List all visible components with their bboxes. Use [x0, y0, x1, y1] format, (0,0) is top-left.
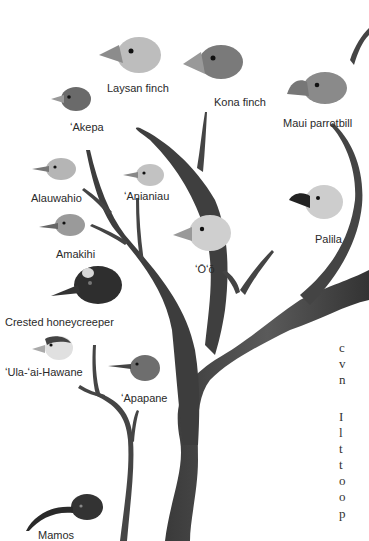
- label-oo: ʻŌʻō: [195, 263, 215, 275]
- ula-ai-hawane-head-icon: [31, 333, 75, 363]
- body-text-line: v: [339, 356, 346, 372]
- palila-head-icon: [288, 182, 344, 224]
- label-anianiau: ʻAnianiau: [124, 190, 169, 202]
- label-ula-ai-hawane: ʻUla-ʻai-Hawane: [5, 366, 83, 378]
- alauwahio-head-icon: [31, 155, 77, 185]
- label-apapane: ʻApapane: [121, 392, 168, 404]
- oo-head-icon: [172, 213, 232, 257]
- kona-finch-head-icon: [181, 42, 243, 86]
- apapane-head-icon: [107, 353, 161, 385]
- body-text-line: I: [339, 409, 343, 425]
- body-text-line: o: [339, 489, 346, 505]
- body-text-line: c: [339, 340, 345, 356]
- maui-parrotbill-head-icon: [285, 70, 347, 110]
- label-laysan-finch: Laysan finch: [107, 82, 169, 94]
- body-text-line: n: [339, 372, 346, 388]
- body-text-line: o: [339, 473, 346, 489]
- laysan-finch-head-icon: [97, 33, 163, 79]
- akepa-head-icon: [50, 85, 92, 115]
- label-alauwahio: Alauwahio: [31, 192, 82, 204]
- body-text-line: t: [339, 441, 343, 457]
- honeycreeper-diagram: Laysan finch Kona finch ʻAkepa Maui parr…: [0, 0, 369, 541]
- amakihi-head-icon: [38, 211, 86, 241]
- label-kona-finch: Kona finch: [214, 96, 266, 108]
- mamos-head-icon: [25, 493, 105, 533]
- anianiau-head-icon: [122, 162, 164, 190]
- body-text-line: p: [339, 506, 346, 522]
- label-amakihi: Amakihi: [56, 248, 95, 260]
- label-mamos: Mamos: [38, 529, 74, 541]
- label-maui-parrotbill: Maui parrotbill: [283, 117, 352, 129]
- body-text-line: t: [339, 457, 343, 473]
- label-akepa: ʻAkepa: [70, 121, 104, 133]
- body-text-line: l: [339, 425, 343, 441]
- label-palila: Palila: [315, 233, 342, 245]
- crested-honeycreeper-head-icon: [50, 263, 124, 307]
- label-crested-honeycreeper: Crested honeycreeper: [5, 316, 114, 328]
